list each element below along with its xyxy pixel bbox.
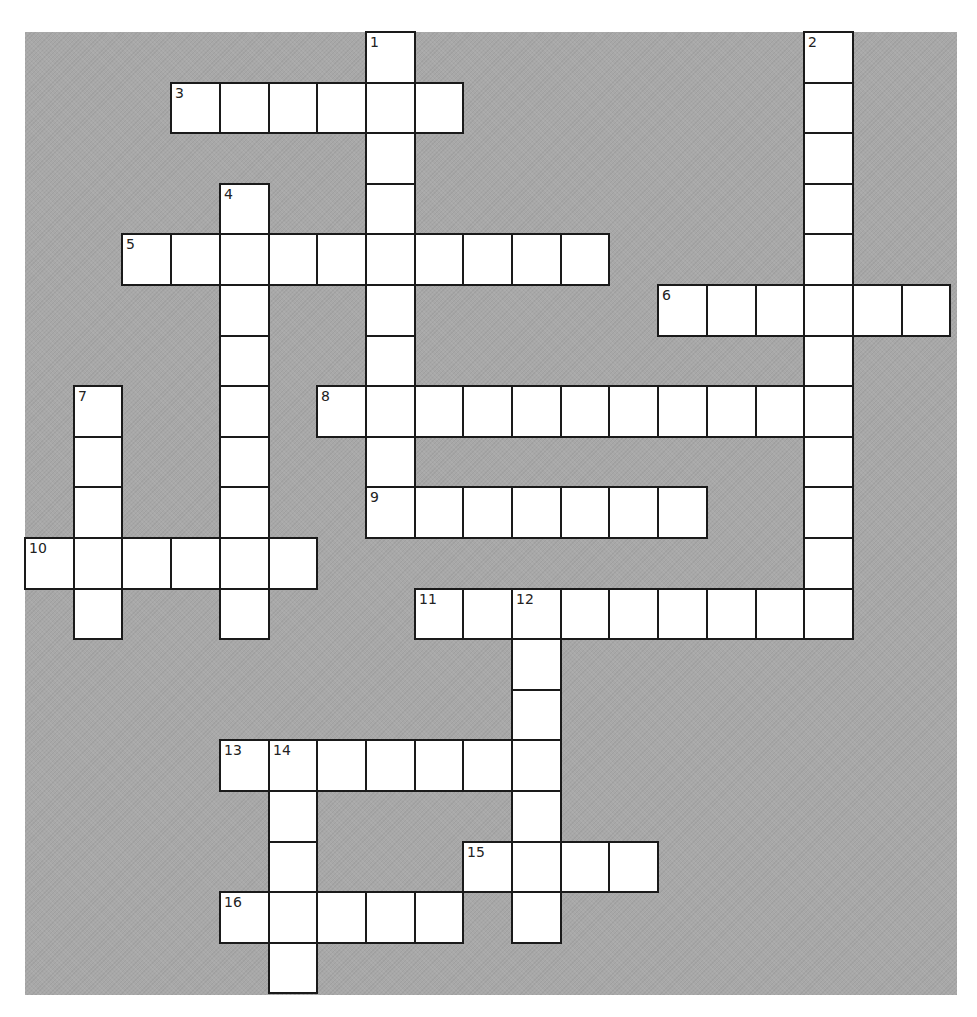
crossword-cell[interactable] xyxy=(511,233,562,286)
crossword-cell[interactable] xyxy=(365,183,416,235)
crossword-cell[interactable] xyxy=(462,233,513,286)
crossword-cell[interactable] xyxy=(755,385,805,438)
crossword-cell[interactable] xyxy=(511,891,562,944)
crossword-cell[interactable] xyxy=(706,284,757,337)
crossword-cell[interactable] xyxy=(170,233,221,286)
crossword-cell[interactable] xyxy=(268,891,318,944)
crossword-cell[interactable] xyxy=(219,588,270,640)
crossword-cell[interactable] xyxy=(511,790,562,843)
crossword-cell[interactable] xyxy=(511,689,562,741)
crossword-cell[interactable]: 6 xyxy=(657,284,708,337)
crossword-cell[interactable] xyxy=(365,132,416,185)
crossword-cell[interactable] xyxy=(219,385,270,438)
crossword-cell[interactable] xyxy=(803,335,854,387)
crossword-cell[interactable]: 2 xyxy=(803,31,854,84)
crossword-cell[interactable]: 12 xyxy=(511,588,562,640)
crossword-cell[interactable] xyxy=(219,486,270,539)
crossword-cell[interactable] xyxy=(852,284,903,337)
crossword-cell[interactable] xyxy=(755,284,805,337)
crossword-cell[interactable]: 9 xyxy=(365,486,416,539)
crossword-cell[interactable] xyxy=(511,638,562,691)
crossword-cell[interactable] xyxy=(608,385,659,438)
crossword-cell[interactable] xyxy=(803,284,854,337)
crossword-cell[interactable] xyxy=(803,82,854,134)
crossword-cell[interactable] xyxy=(511,841,562,893)
crossword-cell[interactable]: 7 xyxy=(73,385,123,438)
crossword-cell[interactable] xyxy=(803,385,854,438)
crossword-cell[interactable] xyxy=(73,537,123,590)
crossword-cell[interactable] xyxy=(657,385,708,438)
crossword-cell[interactable] xyxy=(803,233,854,286)
crossword-cell[interactable] xyxy=(73,436,123,488)
crossword-cell[interactable] xyxy=(414,486,464,539)
crossword-cell[interactable] xyxy=(365,82,416,134)
crossword-cell[interactable] xyxy=(462,588,513,640)
crossword-cell[interactable]: 5 xyxy=(121,233,172,286)
crossword-cell[interactable] xyxy=(365,891,416,944)
crossword-cell[interactable] xyxy=(803,132,854,185)
crossword-cell[interactable] xyxy=(560,588,610,640)
crossword-cell[interactable] xyxy=(219,284,270,337)
crossword-cell[interactable] xyxy=(414,233,464,286)
crossword-cell[interactable] xyxy=(560,233,610,286)
crossword-cell[interactable] xyxy=(365,739,416,792)
crossword-cell[interactable] xyxy=(73,588,123,640)
crossword-cell[interactable] xyxy=(803,183,854,235)
crossword-cell[interactable] xyxy=(219,335,270,387)
crossword-cell[interactable] xyxy=(803,436,854,488)
crossword-cell[interactable] xyxy=(121,537,172,590)
crossword-cell[interactable] xyxy=(657,486,708,539)
crossword-cell[interactable] xyxy=(803,537,854,590)
crossword-cell[interactable] xyxy=(268,233,318,286)
crossword-cell[interactable] xyxy=(706,385,757,438)
crossword-cell[interactable] xyxy=(365,284,416,337)
crossword-cell[interactable]: 13 xyxy=(219,739,270,792)
crossword-cell[interactable] xyxy=(316,233,367,286)
crossword-cell[interactable] xyxy=(414,82,464,134)
crossword-cell[interactable] xyxy=(803,588,854,640)
crossword-cell[interactable] xyxy=(365,436,416,488)
crossword-cell[interactable] xyxy=(511,739,562,792)
crossword-cell[interactable] xyxy=(462,385,513,438)
crossword-cell[interactable] xyxy=(170,537,221,590)
crossword-cell[interactable] xyxy=(657,588,708,640)
crossword-cell[interactable] xyxy=(803,486,854,539)
crossword-cell[interactable] xyxy=(268,537,318,590)
crossword-cell[interactable] xyxy=(365,385,416,438)
crossword-cell[interactable] xyxy=(219,82,270,134)
crossword-cell[interactable] xyxy=(316,739,367,792)
crossword-cell[interactable] xyxy=(73,486,123,539)
crossword-cell[interactable] xyxy=(219,436,270,488)
crossword-cell[interactable] xyxy=(268,790,318,843)
crossword-cell[interactable]: 8 xyxy=(316,385,367,438)
crossword-cell[interactable] xyxy=(268,942,318,994)
crossword-cell[interactable] xyxy=(219,233,270,286)
crossword-cell[interactable] xyxy=(755,588,805,640)
crossword-cell[interactable]: 3 xyxy=(170,82,221,134)
crossword-cell[interactable] xyxy=(414,891,464,944)
crossword-cell[interactable] xyxy=(316,891,367,944)
crossword-cell[interactable] xyxy=(462,739,513,792)
crossword-cell[interactable] xyxy=(706,588,757,640)
crossword-cell[interactable] xyxy=(608,486,659,539)
crossword-cell[interactable] xyxy=(414,739,464,792)
crossword-cell[interactable]: 16 xyxy=(219,891,270,944)
crossword-cell[interactable]: 10 xyxy=(24,537,75,590)
crossword-cell[interactable] xyxy=(560,841,610,893)
crossword-cell[interactable] xyxy=(414,385,464,438)
crossword-cell[interactable] xyxy=(511,385,562,438)
crossword-cell[interactable] xyxy=(365,233,416,286)
crossword-cell[interactable] xyxy=(316,82,367,134)
crossword-cell[interactable] xyxy=(268,82,318,134)
crossword-cell[interactable] xyxy=(268,841,318,893)
crossword-cell[interactable] xyxy=(608,588,659,640)
crossword-cell[interactable]: 15 xyxy=(462,841,513,893)
crossword-cell[interactable] xyxy=(365,335,416,387)
crossword-cell[interactable] xyxy=(560,385,610,438)
crossword-cell[interactable]: 11 xyxy=(414,588,464,640)
crossword-cell[interactable] xyxy=(511,486,562,539)
crossword-cell[interactable] xyxy=(901,284,951,337)
crossword-cell[interactable]: 4 xyxy=(219,183,270,235)
crossword-cell[interactable]: 1 xyxy=(365,31,416,84)
crossword-cell[interactable] xyxy=(462,486,513,539)
